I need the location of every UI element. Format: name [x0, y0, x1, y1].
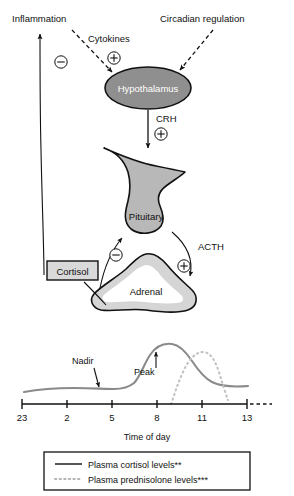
circadian-regulation-arrow: [180, 30, 213, 70]
organ-hypothalamus-label: Hypothalamus: [118, 83, 179, 94]
cytokines-plus-sign: [108, 52, 120, 64]
x-tick-label-5: 13: [242, 412, 253, 423]
organ-adrenal-label: Adrenal: [130, 286, 163, 297]
legend-label-cortisol: Plasma cortisol levels**: [88, 460, 182, 470]
x-tick-label-2: 5: [109, 412, 114, 423]
label-crh: CRH: [156, 113, 177, 124]
pituitary-feedback-minus-sign: [110, 249, 122, 261]
annotation-nadir-label: Nadir: [72, 356, 94, 366]
annotation-peak-label: Peak: [134, 367, 155, 377]
x-tick-label-3: 8: [154, 412, 159, 423]
cortisol-to-inflammation-arrow: [40, 34, 44, 275]
chart-legend: Plasma cortisol levels** Plasma predniso…: [44, 452, 250, 490]
crh-plus-sign: [155, 128, 167, 140]
x-axis-title: Time of day: [124, 432, 171, 442]
organ-pituitary: Pituitary: [104, 148, 185, 233]
organ-pituitary-label: Pituitary: [129, 211, 164, 222]
x-tick-label-4: 11: [197, 412, 207, 423]
organ-hypothalamus: Hypothalamus: [105, 67, 191, 109]
inflammation-minus-sign: [55, 56, 67, 68]
label-inflammation: Inflammation: [12, 13, 66, 24]
diurnal-rhythm-chart: Nadir Peak 23 2 5 8 11 13 Time of day: [17, 344, 272, 442]
figure-root: Inflammation Cytokines Circadian regulat…: [0, 0, 294, 496]
x-tick-label-1: 2: [64, 412, 69, 423]
label-cytokines: Cytokines: [88, 33, 130, 44]
acth-plus-sign: [178, 260, 190, 272]
label-circadian-regulation: Circadian regulation: [160, 13, 245, 24]
hpa-axis-figure: Inflammation Cytokines Circadian regulat…: [0, 0, 294, 496]
cortisol-box: Cortisol: [47, 261, 98, 280]
legend-label-prednisolone: Plasma prednisolone levels***: [88, 475, 209, 485]
cortisol-box-label: Cortisol: [56, 266, 88, 277]
label-acth: ACTH: [198, 241, 224, 252]
prednisolone-curve: [171, 352, 228, 404]
annotation-nadir-arrow: [94, 368, 99, 387]
x-tick-label-0: 23: [17, 412, 28, 423]
